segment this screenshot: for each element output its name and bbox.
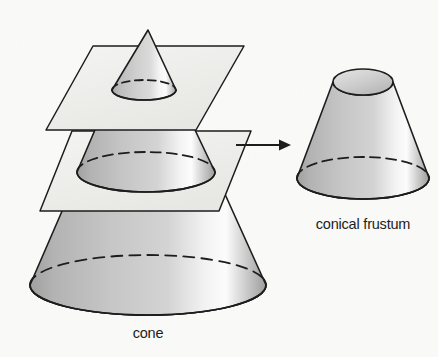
cone-label: cone	[133, 325, 164, 341]
frustum-label: conical frustum	[316, 216, 411, 232]
figure-container: cone conical frustum	[0, 0, 438, 357]
cone-frustum-illustration: cone conical frustum	[0, 0, 438, 357]
frustum-top-ellipse	[333, 69, 393, 95]
